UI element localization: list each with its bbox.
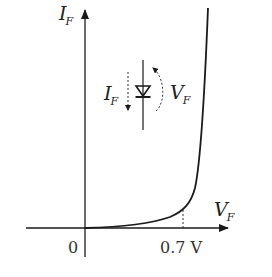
diode-current-label: IF [104,84,119,103]
x-axis-subscript: F [227,211,235,224]
y-axis-label: IF [59,4,74,23]
diagram-graphics [0,0,272,277]
y-axis-subscript: F [66,15,74,28]
x-axis-symbol: V [214,198,228,220]
voltage-direction-arrow-icon [153,68,163,111]
origin-label: 0 [68,240,78,256]
diode-voltage-subscript: F [183,94,191,107]
iv-curve [85,8,208,228]
diode-iv-diagram: IF VF IF VF 0 0.7 V [0,0,272,277]
x-axis-label: VF [214,200,235,219]
diode-voltage-symbol: V [170,81,184,103]
knee-voltage-label: 0.7 V [160,240,202,256]
diode-current-subscript: F [111,95,119,108]
diode-symbol-icon [136,60,151,130]
diode-voltage-label: VF [170,83,191,102]
